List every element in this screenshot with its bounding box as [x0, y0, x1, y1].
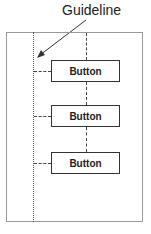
- horizontal-spacer-3: [34, 163, 51, 164]
- button-3[interactable]: Button: [51, 152, 120, 174]
- vertical-spacer-top: [86, 33, 87, 60]
- button-2[interactable]: Button: [51, 105, 120, 127]
- horizontal-spacer-1: [34, 71, 51, 72]
- button-1[interactable]: Button: [51, 60, 120, 82]
- vertical-spacer-1: [86, 82, 87, 105]
- horizontal-spacer-2: [34, 116, 51, 117]
- guideline: [33, 32, 34, 222]
- vertical-spacer-2: [86, 127, 87, 152]
